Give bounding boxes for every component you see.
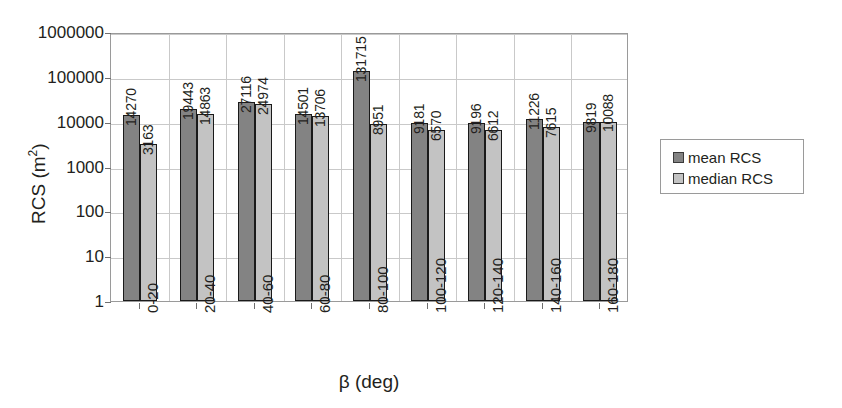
bar-mean-rcs (180, 109, 197, 301)
bar-median-rcs (197, 114, 214, 301)
vertical-gridline (514, 34, 515, 301)
x-axis-category-label: 60-80 (317, 275, 332, 313)
x-axis-category-label: 40-60 (260, 275, 275, 313)
chart-legend: mean RCS median RCS (660, 139, 804, 194)
bar-value-label: 11226 (527, 94, 541, 131)
x-axis-tick-mark (369, 303, 370, 309)
bar-mean-rcs (353, 71, 370, 301)
bar-value-label: 8951 (371, 104, 385, 134)
y-axis-tick-label: 100000 (0, 69, 104, 86)
x-axis-category-label: 100-120 (433, 258, 448, 313)
y-axis-tick-mark (105, 257, 111, 258)
x-axis-tick-mark (484, 303, 485, 309)
bar-mean-rcs (468, 123, 485, 301)
legend-item-mean-rcs: mean RCS (673, 147, 803, 168)
bar-value-label: 6612 (486, 110, 500, 140)
bar-mean-rcs (583, 122, 600, 301)
vertical-gridline (341, 34, 342, 301)
bar-value-label: 14863 (198, 87, 212, 125)
x-axis-tick-mark (542, 303, 543, 309)
x-axis-category-label: 0-20 (145, 283, 160, 313)
vertical-gridline (399, 34, 400, 301)
legend-label-median: median RCS (688, 170, 773, 187)
bar-median-rcs (255, 104, 272, 301)
vertical-gridline (169, 34, 170, 301)
legend-label-mean: mean RCS (688, 149, 761, 166)
bar-value-label: 131715 (354, 37, 368, 83)
bar-value-label: 9819 (584, 103, 598, 133)
bar-median-rcs (312, 116, 329, 301)
y-axis-tick-mark (105, 33, 111, 34)
y-axis-tick-mark (105, 168, 111, 169)
y-axis-tick-mark (105, 212, 111, 213)
vertical-gridline (226, 34, 227, 301)
x-axis-category-label: 80-100 (375, 266, 390, 313)
bar-value-label: 9196 (469, 104, 483, 134)
bar-mean-rcs (526, 119, 543, 301)
chart-figure: RCS (m2) 1000000100000100001000100101 14… (0, 0, 842, 408)
bar-value-label: 7615 (544, 108, 558, 138)
bar-value-label: 19443 (181, 82, 195, 120)
bar-value-label: 6570 (429, 110, 443, 140)
bar-value-label: 10088 (601, 95, 615, 133)
bar-mean-rcs (238, 102, 255, 301)
bar-median-rcs (140, 144, 157, 301)
x-axis-tick-mark (427, 303, 428, 309)
x-axis-category-label: 140-160 (548, 258, 563, 313)
x-axis-category-label: 120-140 (490, 258, 505, 313)
vertical-gridline (284, 34, 285, 301)
x-axis-category-label: 160-180 (605, 258, 620, 313)
bar-value-label: 14501 (296, 87, 310, 125)
legend-swatch-mean-icon (673, 152, 684, 163)
x-axis-tick-mark (196, 303, 197, 309)
y-axis-tick-mark (105, 302, 111, 303)
bar-mean-rcs (123, 115, 140, 301)
bar-mean-rcs (295, 114, 312, 301)
y-axis-tick-mark (105, 123, 111, 124)
bar-value-label: 14270 (124, 88, 138, 126)
legend-item-median-rcs: median RCS (673, 168, 803, 189)
y-axis-tick-label: 10 (0, 248, 104, 265)
bar-mean-rcs (411, 123, 428, 301)
bar-value-label: 24974 (256, 77, 270, 115)
y-axis-tick-label: 1 (0, 293, 104, 310)
vertical-gridline (456, 34, 457, 301)
vertical-gridline (571, 34, 572, 301)
bar-value-label: 9181 (412, 104, 426, 134)
y-axis-tick-mark (105, 78, 111, 79)
x-axis-tick-mark (139, 303, 140, 309)
y-axis-tick-label: 100 (0, 203, 104, 220)
x-axis-tick-mark (599, 303, 600, 309)
bar-value-label: 27116 (239, 76, 253, 113)
y-axis-tick-label: 10000 (0, 114, 104, 131)
bar-value-label: 3163 (141, 125, 155, 155)
bar-value-label: 13706 (313, 89, 327, 127)
x-axis-category-label: 20-40 (202, 275, 217, 313)
legend-swatch-median-icon (673, 173, 684, 184)
x-axis-tick-mark (254, 303, 255, 309)
horizontal-gridline (111, 34, 627, 35)
y-axis-ticks: 1000000100000100001000100101 (0, 0, 104, 408)
x-axis-title: β (deg) (0, 371, 738, 393)
y-axis-tick-label: 1000 (0, 159, 104, 176)
x-axis-tick-mark (311, 303, 312, 309)
y-axis-tick-label: 1000000 (0, 24, 104, 41)
